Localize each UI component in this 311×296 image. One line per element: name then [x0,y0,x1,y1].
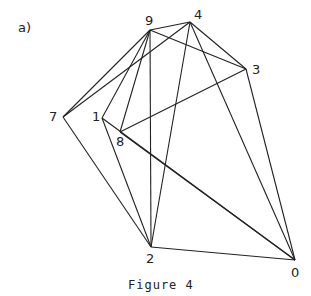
node-label-8: 8 [116,135,124,148]
edge-4-0 [190,22,295,260]
edge-3-8 [120,69,246,132]
edge-4-2 [151,22,190,247]
edge-9-3 [150,30,246,69]
graph-diagram [0,0,311,296]
edge-4-7 [63,22,190,117]
node-label-7: 7 [49,110,57,123]
edge-7-2 [63,117,151,247]
figure-caption: Figure 4 [128,278,194,292]
node-label-3: 3 [252,63,260,76]
edge-9-1 [102,30,150,118]
node-label-1: 1 [92,110,100,123]
node-label-0: 0 [291,266,299,279]
node-label-4: 4 [194,8,202,21]
edge-4-3 [190,22,246,69]
node-label-2: 2 [146,252,154,265]
node-label-9: 9 [145,14,153,27]
edge-2-0 [151,247,295,260]
edge-9-2 [150,30,151,247]
